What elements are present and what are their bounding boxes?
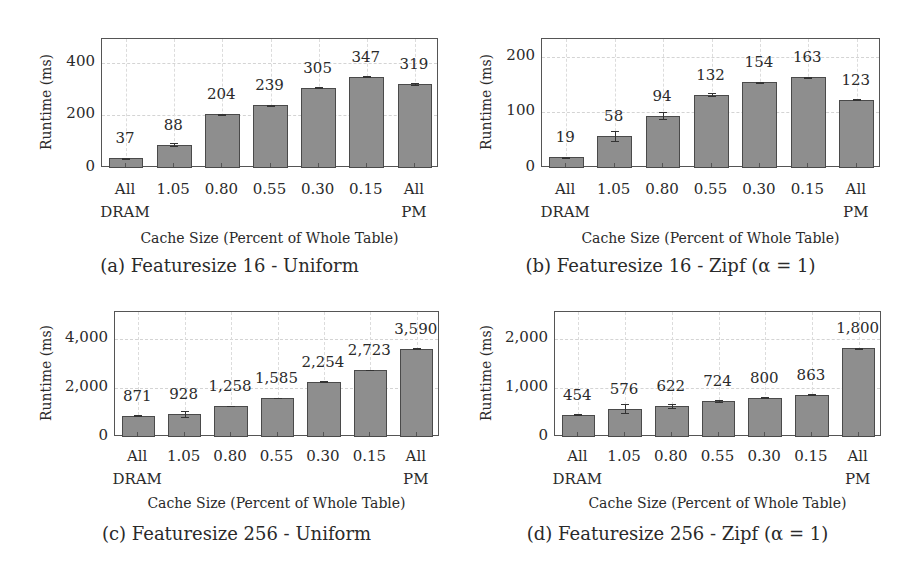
- bar: [253, 105, 288, 168]
- x-axis-label: Cache Size (Percent of Whole Table): [81, 230, 458, 246]
- error-bar-cap: [715, 400, 723, 401]
- y-axis-label: Runtime (ms): [38, 303, 54, 443]
- x-tick-mark: [414, 163, 415, 167]
- error-bar-cap: [761, 398, 769, 399]
- error-bar-cap: [659, 112, 667, 113]
- error-bar: [615, 131, 616, 141]
- panel-caption: (a) Featuresize 16 - Uniform: [11, 255, 448, 276]
- bar: [791, 77, 826, 168]
- y-tick-label: 2,000: [58, 377, 108, 395]
- bar-value-label: 88: [143, 116, 203, 134]
- error-bar-cap: [668, 408, 676, 409]
- bar-value-label: 863: [781, 366, 841, 384]
- bar-value-label: 1,585: [247, 369, 307, 387]
- error-bar-cap: [170, 143, 178, 144]
- error-bar-cap: [804, 78, 812, 79]
- x-tick-label-line2: PM: [382, 201, 446, 224]
- x-tick-mark: [366, 163, 367, 167]
- error-bar-cap: [122, 159, 130, 160]
- bar-value-label: 94: [632, 87, 692, 105]
- bar: [349, 77, 384, 168]
- bar-value-label: 239: [240, 76, 300, 94]
- x-tick-mark: [811, 432, 812, 436]
- y-axis-label: Runtime (ms): [478, 303, 494, 443]
- x-tick-label: All: [384, 445, 448, 468]
- bar: [398, 84, 433, 168]
- error-bar-cap: [853, 100, 861, 101]
- panel-caption: (c) Featuresize 256 - Uniform: [24, 523, 449, 544]
- x-tick-mark: [577, 432, 578, 436]
- x-tick-mark: [856, 163, 857, 167]
- bar: [307, 382, 340, 437]
- y-tick-label: 1,000: [498, 377, 548, 395]
- x-tick-label: All: [824, 178, 888, 201]
- x-tick-mark: [662, 163, 663, 167]
- x-tick-mark: [858, 432, 859, 436]
- error-bar-cap: [218, 115, 226, 116]
- x-tick-mark: [614, 163, 615, 167]
- error-bar-cap: [621, 413, 629, 414]
- bar-value-label: 58: [584, 107, 644, 125]
- bar: [742, 82, 777, 168]
- x-tick-mark: [230, 432, 231, 436]
- error-bar-cap: [320, 382, 328, 383]
- error-bar: [663, 112, 664, 119]
- x-tick-label-line2: PM: [384, 468, 448, 491]
- x-axis-label: Cache Size (Percent of Whole Table): [94, 495, 459, 511]
- x-tick-label-line2: DRAM: [105, 468, 169, 491]
- x-tick-label-line2: DRAM: [93, 201, 157, 224]
- x-tick-label: All: [382, 178, 446, 201]
- error-bar-cap: [274, 398, 282, 399]
- x-tick-mark: [718, 432, 719, 436]
- x-tick-mark: [137, 432, 138, 436]
- grid-line-horizontal: [115, 339, 438, 340]
- x-tick-mark: [270, 163, 271, 167]
- bar-value-label: 319: [384, 55, 444, 73]
- error-bar-cap: [267, 106, 275, 107]
- error-bar-cap: [808, 395, 816, 396]
- error-bar-cap: [413, 349, 421, 350]
- x-tick-mark: [323, 432, 324, 436]
- bar: [400, 349, 433, 437]
- error-bar-cap: [366, 370, 374, 371]
- error-bar-cap: [181, 417, 189, 418]
- x-tick-label-line2: DRAM: [533, 201, 597, 224]
- x-tick-mark: [565, 163, 566, 167]
- y-tick-label: 4,000: [58, 328, 108, 346]
- bar: [301, 88, 336, 168]
- error-bar-cap: [227, 406, 235, 407]
- error-bar-cap: [574, 415, 582, 416]
- error-bar-cap: [855, 349, 863, 350]
- error-bar-cap: [668, 404, 676, 405]
- x-tick-mark: [369, 432, 370, 436]
- x-tick-label-line2: DRAM: [545, 468, 609, 491]
- error-bar-cap: [170, 146, 178, 147]
- bar: [646, 116, 681, 168]
- grid-line-horizontal: [555, 339, 880, 340]
- x-tick-mark: [125, 163, 126, 167]
- grid-line-vertical: [566, 39, 567, 166]
- bar: [122, 416, 155, 437]
- y-axis-label: Runtime (ms): [478, 32, 494, 172]
- x-axis-label: Cache Size (Percent of Whole Table): [534, 495, 901, 511]
- error-bar: [625, 404, 626, 413]
- x-tick-mark: [184, 432, 185, 436]
- x-tick-mark: [764, 432, 765, 436]
- x-tick-label: All: [826, 445, 890, 468]
- panel-caption: (b) Featuresize 16 - Zipf (α = 1): [451, 255, 890, 276]
- error-bar-cap: [181, 411, 189, 412]
- error-bar-cap: [363, 77, 371, 78]
- error-bar-cap: [715, 402, 723, 403]
- x-tick-mark: [277, 432, 278, 436]
- x-tick-mark: [221, 163, 222, 167]
- bar-value-label: 3,590: [386, 320, 446, 338]
- bar: [694, 95, 729, 168]
- x-tick-mark: [807, 163, 808, 167]
- bar-value-label: 1,800: [828, 319, 888, 337]
- bar: [795, 395, 829, 437]
- error-bar-cap: [756, 83, 764, 84]
- y-tick-label: 0: [498, 426, 548, 444]
- bar-value-label: 123: [826, 71, 886, 89]
- error-bar-cap: [621, 404, 629, 405]
- bar: [205, 114, 240, 168]
